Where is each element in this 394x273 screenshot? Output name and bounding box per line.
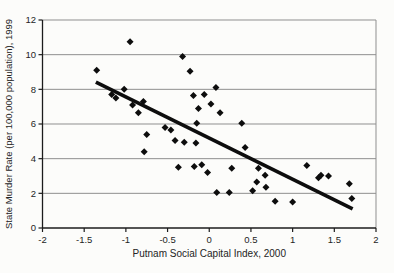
data-point-10 [179,53,186,60]
data-point-34 [253,179,260,186]
x-tick-label--1.5: -1.5 [76,234,92,245]
trend-line [96,82,353,209]
data-point-16 [195,105,202,112]
data-point-38 [272,198,279,205]
data-point-14 [201,91,208,98]
x-tick-label-2: 2 [373,234,378,245]
data-point-13 [190,92,197,99]
data-point-32 [226,189,233,196]
data-point-17 [217,109,224,116]
data-point-18 [193,120,200,127]
y-tick-label-6: 6 [31,118,36,129]
data-point-4 [121,86,128,93]
x-tick-label-0.5: 0.5 [244,234,257,245]
data-point-26 [175,164,182,171]
data-point-39 [289,199,296,206]
data-point-30 [228,165,235,172]
data-point-8 [143,131,150,138]
data-point-23 [181,139,188,146]
x-tick-label-0: 0 [207,234,212,245]
chart-canvas: 024681012-2-1.5-1-0.500.511.52Putnam Soc… [0,0,394,273]
x-tick-label-1: 1 [290,234,295,245]
x-tick-label-1.5: 1.5 [328,234,341,245]
data-point-45 [348,195,355,202]
data-point-31 [213,189,220,196]
data-point-22 [172,137,179,144]
data-point-1 [127,38,134,45]
x-tick-label--1: -1 [122,234,130,245]
data-point-24 [192,140,199,147]
data-point-36 [262,172,269,179]
data-point-9 [141,148,148,155]
data-point-21 [167,127,174,134]
x-axis-title: Putnam Social Capital Index, 2000 [133,248,287,259]
data-point-0 [93,67,100,74]
y-tick-label-4: 4 [31,153,36,164]
data-point-28 [198,161,205,168]
data-point-19 [238,120,245,127]
data-point-40 [303,162,310,169]
data-point-11 [187,68,194,75]
y-tick-label-2: 2 [31,188,36,199]
x-tick-label--0.5: -0.5 [159,234,175,245]
x-tick-label--2: -2 [38,234,46,245]
data-point-25 [242,144,249,151]
data-point-35 [255,165,262,172]
y-tick-label-8: 8 [31,84,36,95]
y-tick-label-0: 0 [31,222,36,233]
data-point-12 [212,84,219,91]
y-axis-title: State Murder Rate (per 100,000 populatio… [3,19,14,229]
data-point-44 [346,180,353,187]
data-point-7 [135,109,142,116]
scatter-chart-figure: 024681012-2-1.5-1-0.500.511.52Putnam Soc… [0,0,394,273]
data-point-43 [325,173,332,180]
data-point-20 [162,124,169,131]
y-tick-label-12: 12 [25,14,36,25]
data-point-27 [191,163,198,170]
data-point-29 [204,169,211,176]
data-point-15 [207,101,214,108]
data-point-37 [262,184,269,191]
y-tick-label-10: 10 [25,49,36,60]
